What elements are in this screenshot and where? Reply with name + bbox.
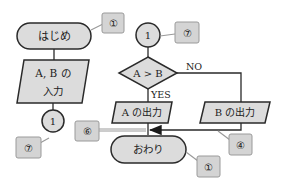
callout-merge-arrow-label: ⑥ — [83, 126, 92, 137]
end-label: おわり — [133, 143, 163, 155]
callout-start-label: ① — [109, 18, 118, 29]
flowchart-diagram: はじめ A, B の 入力 1 1 A > B NO YES A の出力 B の… — [0, 0, 281, 188]
callout-right-connector: ⑦ — [160, 22, 199, 43]
end-terminal: おわり — [111, 136, 186, 163]
output-b-parallelogram: B の出力 — [200, 102, 270, 123]
no-label: NO — [186, 61, 202, 72]
start-terminal: はじめ — [17, 23, 91, 49]
output-a-label: A の出力 — [121, 106, 162, 118]
start-label: はじめ — [38, 30, 71, 43]
left-connector-label: 1 — [50, 116, 56, 127]
callout-b-line-label: ④ — [236, 140, 245, 151]
right-connector-label: 1 — [145, 30, 151, 41]
output-a-parallelogram: A の出力 — [112, 102, 172, 123]
input-parallelogram: A, B の 入力 — [17, 60, 89, 103]
callout-end: ① — [186, 152, 220, 177]
output-b-label: B の出力 — [215, 106, 256, 118]
callout-start: ① — [91, 13, 124, 33]
callout-b-line: ④ — [218, 131, 252, 155]
decision-diamond: A > B — [119, 57, 177, 89]
right-connector-circle: 1 — [136, 23, 160, 47]
input-label-line2: 入力 — [43, 85, 63, 97]
callout-left-connector: ⑦ — [16, 137, 49, 158]
input-label-line1: A, B の — [34, 67, 70, 79]
callout-left-connector-label: ⑦ — [24, 143, 33, 154]
yes-label: YES — [150, 89, 171, 100]
left-connector-circle: 1 — [42, 110, 64, 132]
callout-end-label: ① — [204, 162, 213, 173]
callout-right-connector-label: ⑦ — [183, 28, 192, 39]
flow-line-no — [177, 73, 241, 102]
flow-line-b-merge-arrow — [150, 123, 241, 130]
decision-label: A > B — [132, 68, 162, 79]
